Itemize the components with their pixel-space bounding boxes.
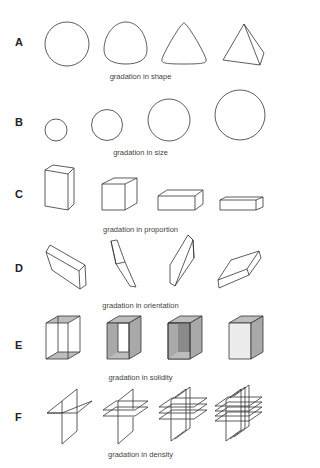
row-c-boxes xyxy=(45,165,263,210)
circle-small xyxy=(45,119,67,141)
planes-1x1 xyxy=(47,389,92,444)
box-wireframe xyxy=(46,316,80,359)
planes-1x2 xyxy=(103,389,148,444)
box-tall xyxy=(45,165,74,210)
planes-3x4 xyxy=(215,385,262,441)
circle-xlarge xyxy=(215,90,265,140)
box-cube xyxy=(102,178,137,210)
row-d-slabs xyxy=(46,235,261,289)
slab-tilted-left xyxy=(170,235,194,286)
row-f-planes xyxy=(47,385,262,444)
slab-tilted-right xyxy=(46,245,86,289)
box-wide xyxy=(158,190,203,210)
shape-curved-triangle xyxy=(162,23,206,64)
slab-tilted-flat xyxy=(218,251,261,288)
row-b-circles xyxy=(45,90,265,141)
box-flat xyxy=(220,197,263,210)
box-darker-shaded xyxy=(168,316,202,359)
planes-2x3 xyxy=(159,387,207,441)
shape-tetrahedron xyxy=(223,24,264,65)
circle-medium xyxy=(92,110,123,141)
row-a-shapes xyxy=(45,22,264,66)
row-e-boxes xyxy=(46,316,263,359)
box-solid xyxy=(229,316,263,359)
circle-large xyxy=(148,99,190,141)
slab-near-vertical xyxy=(111,240,136,287)
box-open-shaded xyxy=(107,316,141,359)
shape-circle xyxy=(45,22,89,66)
shape-rounded-triangle xyxy=(104,22,147,64)
